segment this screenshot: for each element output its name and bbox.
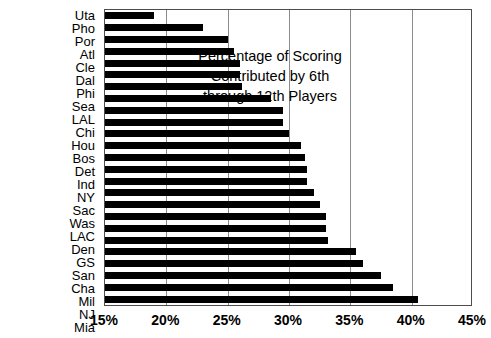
- bar: [105, 154, 305, 161]
- bar: [105, 119, 283, 126]
- bar: [105, 166, 307, 173]
- bar: [105, 272, 381, 279]
- bar-row: [105, 270, 471, 282]
- bar-row: [105, 293, 471, 305]
- bar: [105, 71, 240, 78]
- bar: [105, 95, 271, 102]
- bar-row: [105, 34, 471, 46]
- bar-row: [105, 22, 471, 34]
- bar-row: [105, 199, 471, 211]
- bar: [105, 284, 393, 291]
- bar-row: [105, 104, 471, 116]
- bar: [105, 83, 242, 90]
- bar-row: [105, 258, 471, 270]
- bar: [105, 130, 289, 137]
- bar: [105, 201, 320, 208]
- bar: [105, 48, 234, 55]
- x-tick-label: 20%: [151, 312, 179, 328]
- bar-series: [105, 10, 471, 305]
- bar: [105, 178, 307, 185]
- bar: [105, 12, 154, 19]
- bar-row: [105, 140, 471, 152]
- bar-row: [105, 152, 471, 164]
- scoring-contribution-bar-chart: UtaPhoPorAtlCleDalPhiSeaLALChiHouBosDetI…: [0, 0, 491, 338]
- x-tick-label: 35%: [335, 312, 363, 328]
- bar: [105, 213, 326, 220]
- bar-row: [105, 45, 471, 57]
- bar: [105, 36, 228, 43]
- bar-row: [105, 246, 471, 258]
- x-tick-label: 25%: [213, 312, 241, 328]
- bar: [105, 142, 301, 149]
- bar: [105, 237, 328, 244]
- bar-row: [105, 163, 471, 175]
- bar-row: [105, 57, 471, 69]
- bar-row: [105, 175, 471, 187]
- bar-row: [105, 222, 471, 234]
- bar: [105, 296, 418, 303]
- bar-row: [105, 234, 471, 246]
- x-tick-label: 45%: [458, 312, 486, 328]
- bar: [105, 248, 356, 255]
- category-label: Mia: [0, 321, 100, 334]
- x-tick-label: 30%: [274, 312, 302, 328]
- y-axis-category-labels: UtaPhoPorAtlCleDalPhiSeaLALChiHouBosDetI…: [0, 9, 100, 306]
- bar-row: [105, 281, 471, 293]
- bar-row: [105, 128, 471, 140]
- bar-row: [105, 81, 471, 93]
- bar-row: [105, 10, 471, 22]
- x-axis-tick-labels: 15%20%25%30%35%40%45%: [104, 312, 472, 334]
- bar-row: [105, 211, 471, 223]
- bar: [105, 24, 203, 31]
- bar-row: [105, 187, 471, 199]
- x-tick-label: 40%: [397, 312, 425, 328]
- plot-area: [104, 9, 472, 306]
- x-tick-label: 15%: [90, 312, 118, 328]
- bar: [105, 225, 326, 232]
- bar: [105, 107, 283, 114]
- bar-row: [105, 116, 471, 128]
- bar: [105, 60, 240, 67]
- bar: [105, 189, 314, 196]
- bar-row: [105, 69, 471, 81]
- bar-row: [105, 93, 471, 105]
- bar: [105, 260, 363, 267]
